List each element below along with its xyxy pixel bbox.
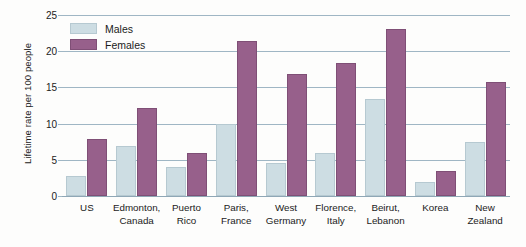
bar-females-4 (287, 74, 307, 196)
y-tick-mark-15 (58, 87, 62, 88)
y-tick-mark-25 (58, 15, 62, 16)
bar-males-8 (465, 142, 485, 196)
legend-label-female: Females (105, 39, 145, 51)
x-axis-label-line2: Zealand (451, 215, 519, 228)
y-tick-mark-5 (58, 160, 62, 161)
bar-females-3 (237, 41, 257, 196)
legend-swatch-female-icon (70, 39, 97, 50)
y-axis-title: Lifetime rate per 100 people (22, 9, 33, 199)
x-axis-label-line1: West (275, 202, 297, 213)
bar-females-6 (386, 29, 406, 196)
legend-item-male: Males (70, 22, 145, 35)
bar-males-2 (166, 167, 186, 196)
bar-chart: Lifetime rate per 100 people 0510152025 … (0, 0, 526, 247)
bar-group (465, 15, 506, 196)
gridline-0 (62, 196, 510, 197)
x-axis-label-line1: Florence, (315, 202, 356, 213)
bar-males-0 (66, 176, 86, 196)
legend-label-male: Males (105, 23, 133, 35)
x-axis-label-8: NewZealand (451, 202, 519, 227)
bar-males-7 (415, 182, 435, 196)
bar-females-0 (87, 139, 107, 196)
y-tick-label-15: 15 (46, 82, 57, 93)
legend-swatch-male-icon (70, 23, 97, 34)
y-tick-label-20: 20 (46, 46, 57, 57)
bar-males-4 (266, 163, 286, 196)
y-tick-label-0: 0 (51, 191, 57, 202)
bar-males-1 (116, 146, 136, 196)
bar-females-7 (436, 171, 456, 196)
x-axis-label-line1: US (80, 202, 94, 213)
bar-females-2 (187, 153, 207, 196)
y-tick-label-5: 5 (51, 154, 57, 165)
legend-item-female: Females (70, 38, 145, 51)
bar-group (166, 15, 207, 196)
x-axis-label-line1: Korea (422, 202, 448, 213)
bar-males-6 (365, 99, 385, 196)
y-tick-mark-0 (58, 196, 62, 197)
x-axis-label-line1: Puerto (172, 202, 201, 213)
bar-group (365, 15, 406, 196)
bar-males-3 (216, 124, 236, 196)
x-axis-label-line1: Paris, (224, 202, 249, 213)
bar-males-5 (315, 153, 335, 196)
y-tick-label-25: 25 (46, 10, 57, 21)
bar-group (415, 15, 456, 196)
y-tick-label-10: 10 (46, 118, 57, 129)
bar-females-1 (137, 108, 157, 196)
bar-group (266, 15, 307, 196)
x-axis-label-line1: New (475, 202, 495, 213)
x-axis-label-line2: Lebanon (352, 215, 420, 228)
chart-legend: MalesFemales (70, 22, 145, 54)
bar-females-5 (336, 63, 356, 196)
bar-group (216, 15, 257, 196)
y-tick-mark-10 (58, 124, 62, 125)
x-axis-label-line1: Beirut, (371, 202, 399, 213)
bar-group (315, 15, 356, 196)
bar-females-8 (486, 82, 506, 196)
y-tick-mark-20 (58, 51, 62, 52)
